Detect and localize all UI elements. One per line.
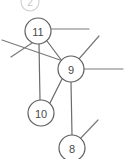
node-label-11: 11 [32, 26, 43, 38]
graph-edge-n11-n10 [39, 44, 40, 100]
graph-svg-root: 2119108 [0, 0, 124, 159]
node-label-8: 8 [69, 143, 75, 155]
graph-edge-n9-n10 [50, 79, 62, 103]
graph-node-11[interactable]: 11 [25, 18, 51, 44]
graph-node-9[interactable]: 9 [58, 56, 84, 82]
node-label-9: 9 [68, 64, 74, 76]
stub-edge-layer [2, 29, 123, 140]
node-layer: 2119108 [21, 0, 85, 159]
graph-stub-edge-s-9-upright [78, 36, 99, 60]
graph-diagram-canvas: 2119108 [0, 0, 124, 159]
graph-stub-edge-s-8-upright [79, 120, 98, 140]
graph-node-2[interactable]: 2 [21, 0, 39, 11]
graph-stub-edge-s-11-downleft [11, 43, 32, 57]
node-label-10: 10 [35, 108, 47, 120]
graph-node-8[interactable]: 8 [59, 135, 85, 159]
graph-edge-n9-n8 [71, 82, 72, 135]
graph-node-10[interactable]: 10 [28, 100, 54, 126]
node-label-2: 2 [27, 0, 33, 8]
